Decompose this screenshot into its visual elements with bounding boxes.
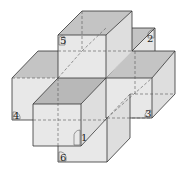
svg-text:2: 2	[147, 33, 153, 44]
label-5: 5	[59, 35, 66, 46]
svg-text:3: 3	[145, 108, 151, 119]
label-4: 4	[13, 110, 20, 121]
svg-text:4: 4	[13, 110, 19, 121]
svg-text:5: 5	[60, 35, 66, 46]
label-3: 3	[145, 108, 151, 119]
svg-text:6: 6	[60, 152, 66, 163]
cube-cross-diagram: 5 2 4 3 1 6	[0, 0, 186, 173]
svg-text:1: 1	[81, 132, 87, 143]
label-6: 6	[59, 152, 66, 163]
